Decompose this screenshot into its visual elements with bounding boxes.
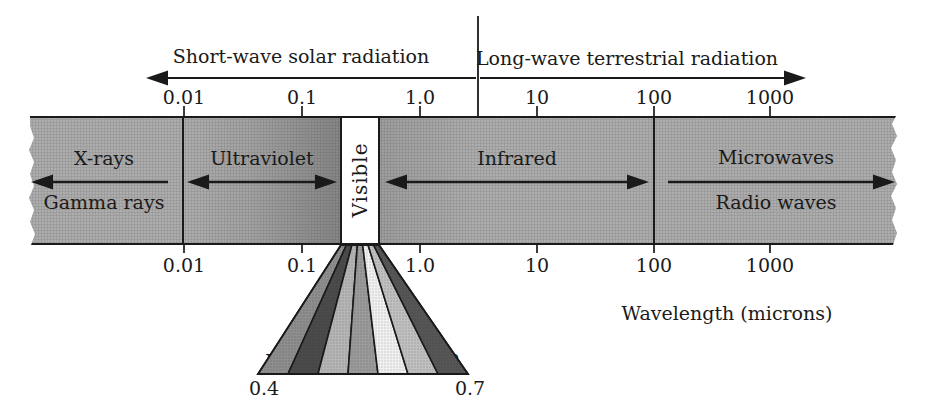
region-ultraviolet (184, 118, 340, 243)
bottom-tick-label-01: 0.1 (287, 254, 317, 276)
top-tick-label-10: 1.0 (405, 86, 435, 108)
top-tick-marks (184, 106, 770, 116)
infrared-label: Infrared (477, 147, 557, 169)
bottom-tick-label-ten: 10 (525, 254, 549, 276)
bottom-tick-label-100: 100 (636, 254, 672, 276)
top-tick-label-1000: 1000 (746, 86, 794, 108)
radio-label: Radio waves (715, 191, 836, 213)
ultraviolet-label: Ultraviolet (210, 147, 313, 169)
axis-title: Wavelength (microns) (622, 302, 833, 324)
fan-letter-yellow: Y (382, 350, 404, 372)
visible-max-label: 0.7 (455, 377, 485, 399)
long-wave-caption: Long-wave terrestrial radiation (476, 47, 778, 69)
fan-letter-orange: O (412, 350, 434, 372)
spectrum-band (28, 116, 898, 245)
bottom-tick-label-001: 0.01 (163, 254, 205, 276)
long-wave-arrowhead-right-icon (784, 71, 806, 86)
gamma-label: Gamma rays (44, 191, 165, 213)
region-xray-gamma (28, 118, 184, 243)
region-microwaves-radio (655, 118, 898, 243)
fan-letter-violet: V (262, 350, 284, 372)
top-tick-label-01: 0.1 (287, 86, 317, 108)
visible-label: Visible (348, 120, 372, 240)
bottom-tick-marks (184, 244, 770, 253)
top-tick-label-001: 0.01 (163, 86, 205, 108)
top-tick-label-100: 100 (636, 86, 672, 108)
visible-min-label: 0.4 (249, 377, 279, 399)
bottom-tick-label-1000: 1000 (746, 254, 794, 276)
region-infrared (380, 118, 655, 243)
fan-letter-red: R (442, 350, 464, 372)
fan-letter-indigo: I (292, 350, 314, 372)
bottom-tick-label-10: 1.0 (405, 254, 435, 276)
fan-letter-blue: B (322, 350, 344, 372)
short-wave-arrowhead-left-icon (146, 71, 168, 86)
em-spectrum-diagram: Short-wave solar radiation Long-wave ter… (0, 0, 926, 414)
short-wave-caption: Short-wave solar radiation (173, 45, 430, 67)
xray-label: X-rays (74, 147, 134, 169)
top-tick-label-ten: 10 (525, 86, 549, 108)
fan-letter-green: G (352, 350, 374, 372)
microwaves-label: Microwaves (718, 146, 834, 168)
